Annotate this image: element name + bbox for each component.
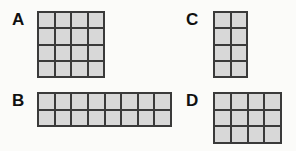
grid-cell [232, 13, 247, 27]
figure-label-d: D [186, 92, 198, 109]
grid-cell [72, 46, 87, 60]
grid-cell [106, 111, 121, 126]
grid-cell [215, 111, 230, 126]
grid-cell [72, 13, 87, 27]
grid-cell [39, 29, 54, 43]
grid-cell [122, 94, 137, 109]
grid-cell [232, 46, 247, 60]
grid-cell [232, 29, 247, 43]
grid-cell [215, 29, 230, 43]
grid-cell [72, 62, 87, 76]
grid-cell [56, 111, 71, 126]
grid-cell [89, 94, 104, 109]
grid-cell [72, 111, 87, 126]
grid-cell [72, 94, 87, 109]
grid-cell [89, 29, 104, 43]
grid-cell [215, 62, 230, 76]
grid-cell [215, 94, 230, 109]
grid-cell [56, 46, 71, 60]
grid-cell [122, 111, 137, 126]
figure-grid-b [37, 92, 172, 127]
grid-cell [265, 111, 280, 126]
grid-cell [139, 111, 154, 126]
grid-cell [56, 13, 71, 27]
grid-cell [39, 13, 54, 27]
grid-cell [155, 111, 170, 126]
grid-cell [249, 127, 264, 142]
grid-cell [89, 62, 104, 76]
figure-label-a: A [12, 11, 24, 28]
grid-cell [232, 94, 247, 109]
grid-cell [232, 127, 247, 142]
grid-cell [56, 94, 71, 109]
grid-cell [232, 62, 247, 76]
figure-grid-c [213, 11, 248, 78]
grid-cell [39, 111, 54, 126]
grid-cell [249, 94, 264, 109]
grid-cell [215, 127, 230, 142]
grid-cell [89, 111, 104, 126]
figure-grid-d [213, 92, 282, 144]
grid-cell [232, 111, 247, 126]
grid-cell [215, 13, 230, 27]
figure-label-c: C [186, 11, 198, 28]
figure-label-b: B [12, 92, 24, 109]
grid-cell [56, 62, 71, 76]
grid-cell [39, 46, 54, 60]
grid-cell [89, 46, 104, 60]
grid-cell [39, 94, 54, 109]
rectangle-grids-figure: A B C D [0, 0, 296, 151]
grid-cell [139, 94, 154, 109]
grid-cell [56, 29, 71, 43]
grid-cell [39, 62, 54, 76]
grid-cell [265, 94, 280, 109]
figure-grid-a [37, 11, 105, 78]
grid-cell [106, 94, 121, 109]
grid-cell [89, 13, 104, 27]
grid-cell [72, 29, 87, 43]
grid-cell [265, 127, 280, 142]
grid-cell [249, 111, 264, 126]
grid-cell [215, 46, 230, 60]
grid-cell [155, 94, 170, 109]
